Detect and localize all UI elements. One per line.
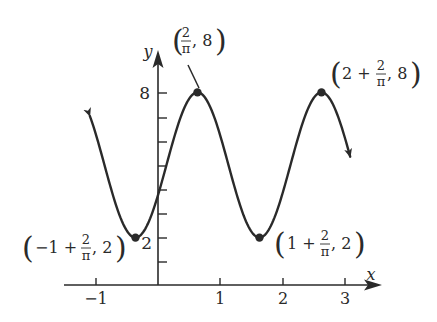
x-tick-label: 2 <box>278 289 288 308</box>
y-tick-label-2: 2 <box>141 233 152 253</box>
close-paren: ) <box>115 230 127 265</box>
y-axis: 8 2 y <box>139 42 167 285</box>
marked-point <box>255 233 263 241</box>
open-paren: ( <box>274 226 286 261</box>
close-paren: ) <box>354 226 366 261</box>
annotation-suffix: , 8 <box>192 31 212 50</box>
annotation-prefix: 2 + <box>342 64 371 83</box>
x-tick-label: 1 <box>215 289 225 308</box>
annotation-min-2: ( 1 + 2 π , 2 ) <box>274 226 366 261</box>
function-curve <box>90 92 350 237</box>
x-axis-label: x <box>366 265 375 284</box>
annotation-suffix: , 2 <box>92 238 112 257</box>
open-paren: ( <box>22 230 34 265</box>
leader-line <box>188 65 199 88</box>
annotation-peak-1: ( 2 π , 8 ) <box>172 23 227 58</box>
frac-den: π <box>321 244 330 259</box>
annotation-min-1: ( −1 + 2 π , 2 ) <box>22 230 127 265</box>
frac-num: 2 <box>182 25 190 40</box>
x-tick-label: 3 <box>340 289 350 308</box>
function-graph: −1 1 2 3 x 8 2 y ( 2 π , 8 ) <box>0 0 437 322</box>
annotation-suffix: , 2 <box>331 234 351 253</box>
annotation-prefix: 1 + <box>287 234 316 253</box>
frac-den: π <box>377 74 386 89</box>
annotation-suffix: , 8 <box>387 64 407 83</box>
close-paren: ) <box>410 56 422 91</box>
marked-point <box>193 88 201 96</box>
frac-num: 2 <box>82 232 90 247</box>
y-tick-label-8: 8 <box>139 83 150 103</box>
marked-point <box>317 88 325 96</box>
annotation-peak-2: ( 2 + 2 π , 8 ) <box>330 56 422 91</box>
y-axis-label: y <box>142 42 153 61</box>
frac-num: 2 <box>321 228 329 243</box>
frac-num: 2 <box>377 58 385 73</box>
marked-point <box>131 233 139 241</box>
x-axis: −1 1 2 3 x <box>64 265 382 308</box>
close-paren: ) <box>215 23 227 58</box>
open-paren: ( <box>330 56 342 91</box>
frac-den: π <box>182 41 191 56</box>
annotation-prefix: −1 + <box>35 238 77 257</box>
x-ticks <box>96 278 345 285</box>
x-tick-label: −1 <box>84 289 108 308</box>
frac-den: π <box>82 248 91 263</box>
